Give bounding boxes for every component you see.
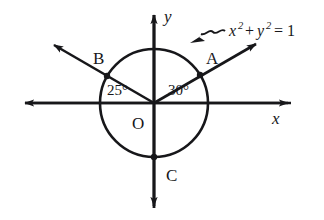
equation-plus-operator: +	[245, 22, 254, 39]
equation-y-term: y	[255, 22, 265, 40]
point-b-marker	[104, 73, 110, 79]
callout-arrowhead-icon	[190, 34, 205, 43]
point-label-c: C	[166, 166, 177, 185]
callout-squiggle	[201, 30, 225, 34]
point-a-marker	[197, 72, 203, 78]
point-c-marker	[151, 154, 157, 160]
x-axis-label: x	[271, 109, 280, 128]
angle-label-25: 25°	[107, 82, 128, 98]
figure-canvas: A B C O x y 30° 25° x 2 + y 2 = 1	[0, 0, 324, 220]
equation-x-term: x	[228, 22, 236, 39]
unit-circle-diagram: A B C O x y 30° 25° x 2 + y 2 = 1	[0, 0, 324, 220]
point-label-b: B	[93, 49, 104, 68]
y-axis-label: y	[162, 7, 172, 26]
origin-label: O	[132, 114, 144, 133]
equation-equals-one: = 1	[274, 22, 295, 39]
equation-y-exponent: 2	[266, 20, 272, 31]
circle-equation-label: x 2 + y 2 = 1	[228, 20, 295, 40]
equation-x-exponent: 2	[238, 20, 244, 31]
angle-label-30: 30°	[168, 82, 189, 98]
point-label-a: A	[206, 49, 219, 68]
